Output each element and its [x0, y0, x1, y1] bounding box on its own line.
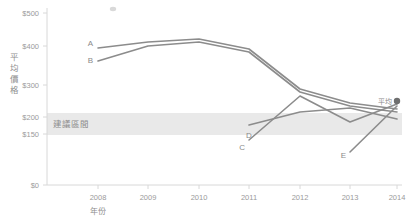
average-marker-label: 平均: [378, 97, 392, 106]
x-tick-label-2014: 2014: [389, 193, 406, 202]
y-tick-label-0: $0: [31, 181, 39, 190]
series-line-b: [98, 42, 397, 112]
series-label-c: C: [239, 143, 245, 152]
suggested-range-band: [47, 113, 402, 135]
y-axis-title-char-4: 格: [10, 85, 19, 95]
chart-svg: $500 $400 $300 $200 $150 $0 平 均 價 格 2008…: [0, 0, 408, 218]
x-axis-title: 年份: [90, 206, 106, 216]
x-tick-label-2010: 2010: [191, 193, 208, 202]
average-marker-dot: [394, 98, 400, 104]
y-tick-label-150: $150: [22, 130, 39, 139]
series-label-b: B: [88, 56, 93, 65]
y-tick-label-400: $400: [22, 42, 39, 51]
y-axis-title-char-3: 價: [10, 74, 19, 84]
y-axis-title: 平 均 價 格: [10, 52, 19, 95]
x-tick-label-2012: 2012: [292, 193, 309, 202]
series-label-d: D: [246, 131, 252, 140]
x-tick-label-2013: 2013: [342, 193, 359, 202]
y-tick-label-200: $200: [22, 113, 39, 122]
suggested-range-label: 建議區間: [53, 119, 89, 129]
x-tick-label-2009: 2009: [140, 193, 157, 202]
decorative-smudge-icon: [110, 7, 116, 11]
price-trend-chart: $500 $400 $300 $200 $150 $0 平 均 價 格 2008…: [0, 0, 408, 218]
y-axis-title-char-2: 均: [10, 63, 19, 73]
series-label-e: E: [341, 151, 346, 160]
y-tick-label-300: $300: [22, 81, 39, 90]
y-tick-label-500: $500: [22, 9, 39, 18]
y-axis-title-char-1: 平: [10, 52, 19, 62]
series-label-a: A: [88, 39, 94, 48]
x-tick-label-2008: 2008: [90, 193, 107, 202]
series-line-a: [98, 39, 397, 109]
x-tick-label-2011: 2011: [241, 193, 257, 202]
